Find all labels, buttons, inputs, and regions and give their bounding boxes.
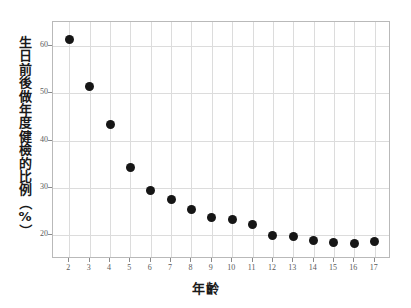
x-tick-mark <box>374 258 375 262</box>
y-axis-title-char: 比 <box>14 170 36 183</box>
gridline-y-60 <box>53 46 389 47</box>
x-tick-label: 10 <box>221 263 241 272</box>
x-tick-label: 8 <box>180 263 200 272</box>
gridline-x-13 <box>293 22 294 257</box>
data-point <box>207 213 216 222</box>
gridline-x-3 <box>90 22 91 257</box>
x-tick-mark <box>129 258 130 262</box>
data-point <box>146 186 155 195</box>
x-tick-label: 2 <box>58 263 78 272</box>
x-tick-label: 16 <box>343 263 363 272</box>
y-axis-title-char: （ <box>18 193 31 215</box>
data-point <box>167 195 176 204</box>
data-point <box>309 236 318 245</box>
x-tick-label: 14 <box>303 263 323 272</box>
data-point <box>85 82 94 91</box>
gridline-x-8 <box>191 22 192 257</box>
x-tick-mark <box>272 258 273 262</box>
x-tick-label: 12 <box>262 263 282 272</box>
y-axis-title-char: 度 <box>14 116 36 129</box>
y-tick-label: 40 <box>30 136 48 144</box>
gridline-x-5 <box>130 22 131 257</box>
x-tick-mark <box>68 258 69 262</box>
data-point <box>126 163 135 172</box>
x-tick-label: 13 <box>282 263 302 272</box>
x-tick-label: 4 <box>99 263 119 272</box>
x-tick-mark <box>231 258 232 262</box>
x-tick-label: 17 <box>364 263 384 272</box>
x-tick-mark <box>109 258 110 262</box>
gridline-y-30 <box>53 188 389 189</box>
gridline-x-14 <box>314 22 315 257</box>
gridline-x-6 <box>151 22 152 257</box>
x-tick-mark <box>211 258 212 262</box>
gridline-x-17 <box>375 22 376 257</box>
gridline-x-15 <box>334 22 335 257</box>
data-point <box>65 35 74 44</box>
gridline-x-2 <box>69 22 70 257</box>
gridline-y-50 <box>53 93 389 94</box>
gridline-x-7 <box>171 22 172 257</box>
x-axis-title: 年齡 <box>0 278 411 297</box>
y-axis-title-char: 日 <box>14 49 36 62</box>
x-tick-mark <box>170 258 171 262</box>
data-point <box>268 231 277 240</box>
gridline-y-40 <box>53 141 389 142</box>
gridline-x-12 <box>273 22 274 257</box>
x-tick-mark <box>89 258 90 262</box>
x-tick-label: 11 <box>242 263 262 272</box>
data-point <box>370 237 379 246</box>
y-tick-label: 30 <box>30 183 48 191</box>
x-tick-label: 6 <box>140 263 160 272</box>
y-axis-title-char: 前 <box>14 63 36 76</box>
y-axis-title-char: 年 <box>14 103 36 116</box>
x-tick-mark <box>190 258 191 262</box>
x-tick-mark <box>333 258 334 262</box>
x-tick-label: 7 <box>160 263 180 272</box>
plot-area <box>52 21 390 258</box>
x-tick-label: 5 <box>119 263 139 272</box>
gridline-y-20 <box>53 235 389 236</box>
data-point <box>329 238 338 247</box>
x-tick-mark <box>292 258 293 262</box>
data-point <box>187 205 196 214</box>
data-point <box>289 232 298 241</box>
data-point <box>350 239 359 248</box>
x-tick-mark <box>313 258 314 262</box>
y-tick-label: 60 <box>30 41 48 49</box>
data-point <box>248 220 257 229</box>
x-tick-mark <box>252 258 253 262</box>
x-tick-label: 9 <box>201 263 221 272</box>
chart-figure: 生日前後做年度健檢的比例（%） 2030405060 2345678910111… <box>0 0 411 308</box>
gridline-x-4 <box>110 22 111 257</box>
y-tick-label: 50 <box>30 88 48 96</box>
y-tick-label: 20 <box>30 230 48 238</box>
data-point <box>228 215 237 224</box>
x-tick-mark <box>150 258 151 262</box>
y-axis-title-char: 檢 <box>14 143 36 156</box>
x-tick-label: 15 <box>323 263 343 272</box>
gridline-x-16 <box>354 22 355 257</box>
y-axis-title-char: 的 <box>14 157 36 170</box>
data-point <box>106 120 115 129</box>
x-tick-mark <box>353 258 354 262</box>
x-tick-label: 3 <box>79 263 99 272</box>
